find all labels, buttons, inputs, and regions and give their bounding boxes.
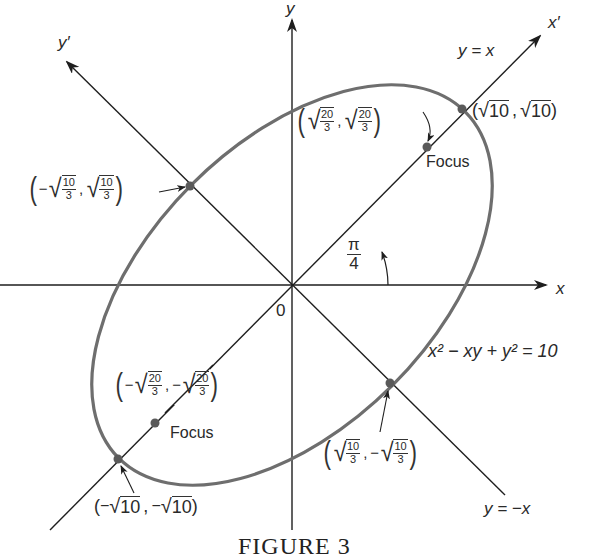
focus-pos-coord-label: ( √203 , √203 ) (296, 104, 383, 136)
clr-y-den: 3 (393, 454, 407, 466)
cul-x-num: 10 (62, 177, 76, 190)
fp-x-den: 3 (320, 122, 334, 134)
figure-caption: FIGURE 3 (238, 534, 351, 556)
focus-neg-coord-label: ( − √203 , − √203 ) (114, 368, 220, 400)
figure-canvas (0, 0, 592, 556)
focus-pos-point (423, 143, 432, 152)
cul-y-den: 3 (99, 190, 113, 202)
clr-y-num: 10 (393, 441, 407, 454)
angle-arc (382, 252, 388, 285)
pointer-arrow-covertex-ul (159, 187, 185, 192)
focus-neg-point (151, 419, 160, 428)
angle-num: π (347, 236, 361, 255)
angle-den: 4 (347, 255, 361, 273)
cul-y-num: 10 (99, 177, 113, 190)
cul-x-den: 3 (62, 190, 76, 202)
fp-y-den: 3 (358, 122, 372, 134)
clr-x-den: 3 (346, 454, 360, 466)
angle-label: π 4 (347, 236, 361, 273)
vertex-neg-point (114, 455, 123, 464)
y-prime-axis (67, 62, 505, 495)
vertex-pos-y: 10 (531, 100, 551, 120)
pointer-arrow-focus-pos (423, 112, 430, 141)
angle-fraction: π 4 (347, 236, 361, 273)
vertex-neg-label: ( − √10 , − √10 ) (94, 496, 198, 516)
y-prime-axis-label: y′ (58, 34, 70, 51)
fn-x-num: 20 (148, 373, 162, 386)
covertex-upper-left-point (186, 182, 195, 191)
focus-pos-label: Focus (426, 154, 470, 170)
fp-x-num: 20 (320, 109, 334, 122)
vertex-neg-x: 10 (120, 496, 140, 516)
line-y-eq-neg-x-label: y = −x (484, 500, 530, 517)
vertex-pos-label: ( √10 , √10 ) (472, 100, 557, 120)
ellipse-equation: x² − xy + y² = 10 (428, 342, 558, 360)
fn-y-den: 3 (195, 386, 209, 398)
vertex-pos-x: 10 (489, 100, 509, 120)
equation-text: x² − xy + y² = 10 (428, 341, 558, 361)
x-axis-label: x (556, 280, 565, 297)
origin-label: 0 (276, 302, 285, 319)
y-axis-label: y (286, 0, 295, 17)
x-prime-axis-label: x′ (548, 14, 560, 31)
fn-x-den: 3 (148, 386, 162, 398)
ellipse-figure: y x x′ y′ 0 y = x y = −x x² − xy + y² = … (0, 0, 592, 556)
fn-y-num: 20 (195, 373, 209, 386)
vertex-neg-y: 10 (172, 496, 192, 516)
line-y-eq-x-label: y = x (458, 42, 494, 59)
clr-x-num: 10 (346, 441, 360, 454)
covertex-lower-right-point (386, 379, 395, 388)
covertex-lower-right-label: ( √103 , − √103 ) (322, 436, 418, 468)
fp-y-num: 20 (358, 109, 372, 122)
focus-neg-label: Focus (170, 425, 214, 441)
vertex-pos-point (458, 105, 467, 114)
covertex-upper-left-label: ( − √103 , √103 ) (28, 172, 124, 204)
